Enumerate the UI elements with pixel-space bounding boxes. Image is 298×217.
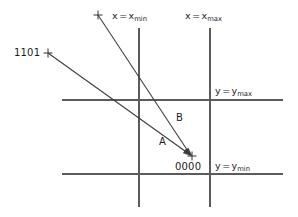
label-segment-a: A bbox=[159, 137, 166, 147]
diagram-canvas bbox=[0, 0, 298, 217]
label-y-min-equals: = bbox=[221, 160, 232, 171]
segment-a-line bbox=[48, 53, 190, 154]
label-x-max: x=xmax bbox=[185, 11, 222, 21]
label-x-max-subscript: max bbox=[207, 15, 222, 23]
segment-b-line bbox=[98, 15, 190, 154]
label-inside-region-code: 0000 bbox=[175, 162, 201, 172]
label-x-min-subscript: min bbox=[134, 15, 147, 23]
label-y-min-var: y bbox=[215, 160, 221, 171]
label-y-max: y=ymax bbox=[215, 86, 252, 96]
label-x-max-equals: = bbox=[191, 10, 202, 21]
label-y-max-var: y bbox=[215, 85, 221, 96]
label-x-min-var: x bbox=[112, 10, 118, 21]
label-x-min-equals: = bbox=[118, 10, 129, 21]
line-clipping-diagram: x=xmin x=xmax y=ymax y=ymin 1101 0000 A … bbox=[0, 0, 298, 217]
label-x-max-var: x bbox=[185, 10, 191, 21]
label-y-min-subscript: min bbox=[237, 165, 250, 173]
cross-marker-top bbox=[94, 11, 103, 20]
label-y-max-equals: = bbox=[221, 85, 232, 96]
label-x-min: x=xmin bbox=[112, 11, 147, 21]
label-segment-b: B bbox=[176, 113, 183, 123]
label-y-max-subscript: max bbox=[237, 90, 252, 98]
label-outside-region-code: 1101 bbox=[14, 48, 40, 58]
label-y-min: y=ymin bbox=[215, 161, 250, 171]
cross-marker-1101 bbox=[44, 49, 53, 58]
